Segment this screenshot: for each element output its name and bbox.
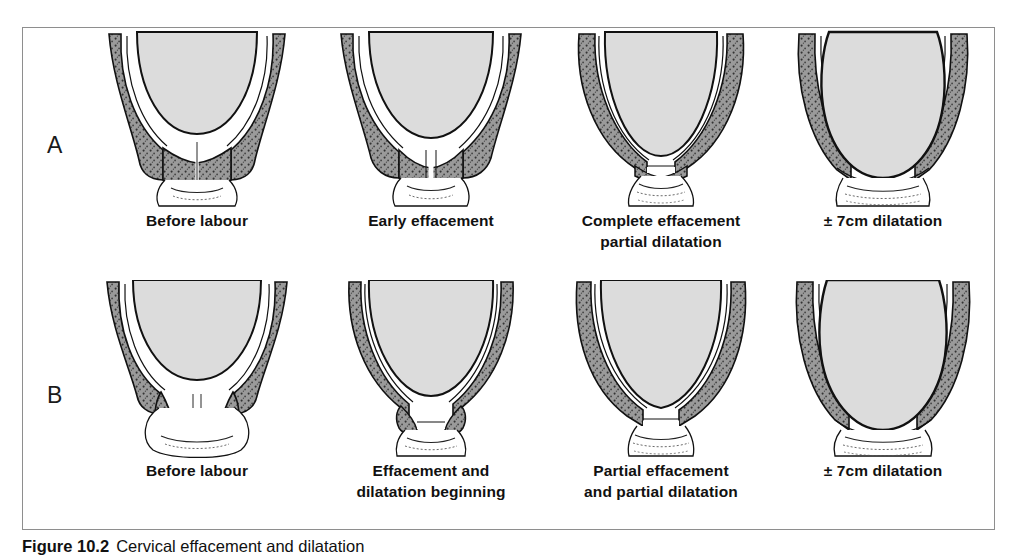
caption-line: and partial dilatation	[537, 481, 785, 502]
panel-a4: ± 7cm dilatation	[765, 28, 1001, 278]
cervix-diagram-b2-effacement-dilatation-beginning	[313, 280, 549, 458]
cervix-diagram-a2-early-effacement	[313, 30, 549, 208]
cervix-diagram-a4-seven-cm-dilatation	[765, 30, 1001, 208]
figure-caption: Figure 10.2Cervical effacement and dilat…	[22, 536, 982, 556]
cervix-diagram-b1-before-labour	[79, 280, 315, 458]
caption-line: Effacement and	[307, 460, 555, 481]
panel-b1: Before labour	[79, 278, 315, 528]
figure-caption-number: Figure 10.2	[22, 537, 109, 555]
row-label-b: B	[47, 382, 63, 409]
caption-line: ± 7cm dilatation	[759, 210, 1007, 231]
panel-a3: Complete effacement partial dilatation	[543, 28, 779, 278]
cervix-diagram-a3-complete-effacement	[543, 30, 779, 208]
cervix-diagram-a1-before-labour	[79, 30, 315, 208]
figure-row-a: A	[23, 28, 994, 278]
caption-line: Before labour	[73, 210, 321, 231]
panel-b2-caption: Effacement and dilatation beginning	[307, 460, 555, 502]
panel-b1-caption: Before labour	[73, 460, 321, 481]
panel-a2: Early effacement	[313, 28, 549, 278]
caption-line: partial dilatation	[537, 231, 785, 252]
panel-b2: Effacement and dilatation beginning	[313, 278, 549, 528]
panel-a1-caption: Before labour	[73, 210, 321, 231]
caption-line: ± 7cm dilatation	[759, 460, 1007, 481]
panel-a3-caption: Complete effacement partial dilatation	[537, 210, 785, 252]
figure-row-b: B	[23, 278, 994, 528]
panel-b4: ± 7cm dilatation	[765, 278, 1001, 528]
panel-b3-caption: Partial effacement and partial dilatatio…	[537, 460, 785, 502]
figure-caption-text: Cervical effacement and dilatation	[116, 537, 364, 555]
figure-frame: A	[22, 27, 995, 530]
panel-a1: Before labour	[79, 28, 315, 278]
caption-line: dilatation beginning	[307, 481, 555, 502]
caption-line: Early effacement	[307, 210, 555, 231]
cervix-diagram-b4-seven-cm-dilatation	[765, 280, 1001, 458]
panel-a4-caption: ± 7cm dilatation	[759, 210, 1007, 231]
caption-line: Partial effacement	[537, 460, 785, 481]
panel-b4-caption: ± 7cm dilatation	[759, 460, 1007, 481]
panel-b3: Partial effacement and partial dilatatio…	[543, 278, 779, 528]
cervix-diagram-b3-partial-effacement-dilatation	[543, 280, 779, 458]
panel-a2-caption: Early effacement	[307, 210, 555, 231]
caption-line: Before labour	[73, 460, 321, 481]
row-label-a: A	[47, 132, 63, 159]
caption-line: Complete effacement	[537, 210, 785, 231]
